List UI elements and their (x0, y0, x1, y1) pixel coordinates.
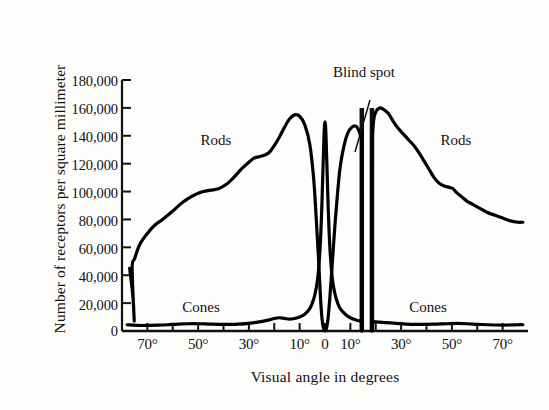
plot-area (0, 0, 549, 410)
rods-label-right: Rods (441, 132, 472, 149)
x-tick-label: 50° (188, 336, 208, 353)
axis-lines (122, 80, 528, 331)
x-axis-title: Visual angle in degrees (122, 368, 528, 386)
x-tick-label: 0 (321, 336, 328, 353)
retina-receptor-density-chart: Number of receptors per square millimete… (0, 0, 549, 410)
x-tick-label: 30° (239, 336, 259, 353)
series-curve-cones (372, 322, 523, 331)
x-tick-label: 10° (340, 336, 360, 353)
x-tick-label: 50° (442, 336, 462, 353)
x-tick-label: 70° (137, 336, 157, 353)
cones-label-right: Cones (409, 299, 447, 316)
series-curve-cones (127, 122, 362, 331)
x-tick-label: 30° (391, 336, 411, 353)
x-tick-label: 70° (492, 336, 512, 353)
blind-spot-annotation: Blind spot (333, 64, 395, 81)
rods-label-left: Rods (201, 132, 232, 149)
x-tick-label: 10° (289, 336, 309, 353)
cones-label-left: Cones (182, 299, 220, 316)
